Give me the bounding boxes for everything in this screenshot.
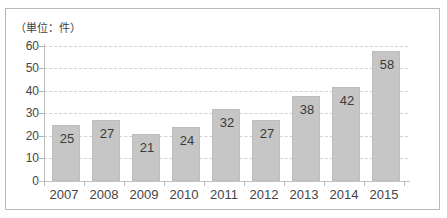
bar-value-2011: 32 bbox=[207, 116, 247, 129]
x-axis-label-2007: 2007 bbox=[42, 188, 86, 201]
x-axis-label-2012: 2012 bbox=[242, 188, 286, 201]
bar-value-2008: 27 bbox=[87, 127, 127, 140]
bar-value-2014: 42 bbox=[327, 94, 367, 107]
x-axis-label-2011: 2011 bbox=[202, 188, 246, 201]
x-axis-label-2013: 2013 bbox=[282, 188, 326, 201]
bar-2011[interactable]: 32 bbox=[212, 109, 240, 181]
bar-2013[interactable]: 38 bbox=[292, 96, 320, 182]
bar-value-2010: 24 bbox=[167, 134, 207, 147]
x-axis-label-2008: 2008 bbox=[82, 188, 126, 201]
x-axis-tick-1 bbox=[84, 181, 85, 186]
y-axis-label-60: 60 bbox=[15, 40, 39, 52]
gridline-60 bbox=[44, 46, 408, 47]
bar-2009[interactable]: 21 bbox=[132, 134, 160, 181]
x-axis-tick-4 bbox=[204, 181, 205, 186]
y-axis-labels: 60 50 40 30 20 10 0 bbox=[11, 9, 39, 211]
x-axis-label-2015: 2015 bbox=[362, 188, 406, 201]
bar-2008[interactable]: 27 bbox=[92, 120, 120, 181]
bar-2010[interactable]: 24 bbox=[172, 127, 200, 181]
bar-value-2015: 58 bbox=[367, 58, 407, 71]
bar-value-2007: 25 bbox=[47, 132, 87, 145]
plot-area: 25 27 21 24 32 27 38 42 58 bbox=[44, 46, 408, 181]
bar-2015[interactable]: 58 bbox=[372, 51, 400, 182]
bar-value-2009: 21 bbox=[127, 141, 167, 154]
x-axis-tick-6 bbox=[284, 181, 285, 186]
bar-value-2013: 38 bbox=[287, 103, 327, 116]
x-axis-tick-7 bbox=[324, 181, 325, 186]
y-axis-label-50: 50 bbox=[15, 62, 39, 74]
x-axis-line bbox=[36, 181, 410, 182]
bar-2007[interactable]: 25 bbox=[52, 125, 80, 181]
x-axis-tick-8 bbox=[364, 181, 365, 186]
x-axis-label-2014: 2014 bbox=[322, 188, 366, 201]
x-axis-tick-5 bbox=[244, 181, 245, 186]
y-axis-label-30: 30 bbox=[15, 107, 39, 119]
bar-value-2012: 27 bbox=[247, 127, 287, 140]
x-axis-tick-9 bbox=[404, 181, 405, 186]
x-axis-tick-2 bbox=[124, 181, 125, 186]
x-axis-tick-3 bbox=[164, 181, 165, 186]
y-axis-label-10: 10 bbox=[15, 152, 39, 164]
gridline-50 bbox=[44, 68, 408, 69]
chart-frame: （単位：件） 60 50 40 30 20 10 0 25 27 21 24 3… bbox=[5, 8, 440, 210]
y-axis-label-20: 20 bbox=[15, 130, 39, 142]
y-axis-label-40: 40 bbox=[15, 85, 39, 97]
bar-2014[interactable]: 42 bbox=[332, 87, 360, 182]
x-axis-tick-0 bbox=[44, 181, 45, 186]
x-axis-label-2010: 2010 bbox=[162, 188, 206, 201]
x-axis-label-2009: 2009 bbox=[122, 188, 166, 201]
bar-2012[interactable]: 27 bbox=[252, 120, 280, 181]
